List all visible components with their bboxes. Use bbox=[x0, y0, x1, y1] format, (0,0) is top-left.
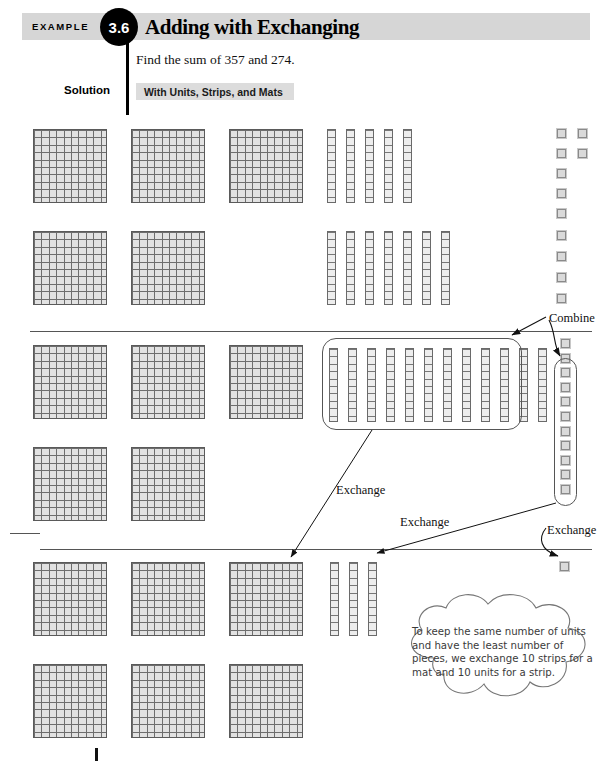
strip-piece bbox=[384, 231, 393, 305]
unit-piece bbox=[557, 252, 566, 261]
rule-above-combined bbox=[30, 331, 592, 332]
example-label: EXAMPLE bbox=[32, 21, 89, 32]
unit-piece bbox=[557, 189, 566, 198]
unit-group-oval bbox=[554, 358, 577, 506]
strip-piece bbox=[365, 129, 374, 203]
unit-piece bbox=[560, 562, 569, 571]
strip-piece bbox=[365, 231, 374, 305]
page-title: Adding with Exchanging bbox=[145, 15, 359, 40]
mat-piece bbox=[229, 345, 303, 419]
unit-piece bbox=[557, 231, 566, 240]
strip-piece bbox=[346, 231, 355, 305]
solution-method-label: With Units, Strips, and Mats bbox=[144, 86, 283, 98]
mat-piece bbox=[33, 231, 107, 305]
unit-piece bbox=[557, 209, 566, 218]
mat-piece bbox=[131, 129, 205, 203]
strip-piece bbox=[422, 231, 431, 305]
mat-piece bbox=[229, 129, 303, 203]
example-number-badge: 3.6 bbox=[100, 8, 138, 46]
strip-piece bbox=[327, 231, 336, 305]
cloud-callout-text: To keep the same number of units and hav… bbox=[412, 625, 594, 679]
strip-piece bbox=[349, 562, 358, 636]
mat-piece bbox=[131, 447, 205, 521]
strip-group-oval bbox=[322, 338, 522, 430]
mat-piece bbox=[131, 345, 205, 419]
mat-piece bbox=[229, 562, 303, 636]
strip-piece bbox=[441, 231, 450, 305]
mat-piece bbox=[33, 664, 107, 738]
strip-piece bbox=[538, 348, 547, 422]
strip-piece bbox=[330, 562, 339, 636]
mat-piece bbox=[229, 664, 303, 738]
annotation-exchange-units: Exchange bbox=[400, 515, 449, 530]
mat-piece bbox=[33, 345, 107, 419]
unit-piece bbox=[578, 149, 587, 158]
rule-above-result bbox=[40, 549, 592, 550]
unit-piece bbox=[557, 149, 566, 158]
strip-piece bbox=[403, 129, 412, 203]
unit-piece bbox=[557, 273, 566, 282]
mat-piece bbox=[33, 562, 107, 636]
solution-label: Solution bbox=[64, 84, 110, 96]
annotation-combine: Combine bbox=[549, 311, 595, 326]
mat-piece bbox=[131, 562, 205, 636]
mat-piece bbox=[33, 447, 107, 521]
unit-piece bbox=[561, 339, 570, 348]
annotation-exchange-single: Exchange bbox=[547, 523, 596, 538]
problem-statement: Find the sum of 357 and 274. bbox=[136, 52, 295, 68]
example-vertical-rule bbox=[126, 40, 129, 115]
strip-piece bbox=[384, 129, 393, 203]
strip-piece bbox=[327, 129, 336, 203]
mat-piece bbox=[131, 664, 205, 738]
mat-piece bbox=[33, 129, 107, 203]
annotation-exchange-strips: Exchange bbox=[336, 483, 385, 498]
unit-piece bbox=[578, 129, 587, 138]
mat-piece bbox=[131, 231, 205, 305]
strip-piece bbox=[346, 129, 355, 203]
strip-piece bbox=[403, 231, 412, 305]
unit-piece bbox=[557, 129, 566, 138]
unit-piece bbox=[557, 169, 566, 178]
unit-piece bbox=[557, 294, 566, 303]
rule-short-left bbox=[10, 533, 40, 534]
bottom-tick-mark bbox=[95, 748, 98, 761]
strip-piece bbox=[368, 562, 377, 636]
